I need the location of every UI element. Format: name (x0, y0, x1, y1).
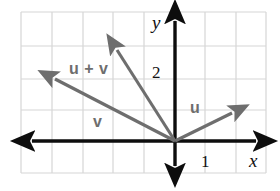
x-axis-label: x (249, 151, 257, 170)
y-axis-label: y (152, 13, 160, 32)
coordinate-plane-svg (0, 0, 280, 191)
vector-addition-figure: u + v v u y x 2 1 (0, 0, 280, 191)
vector-label-u: u (190, 100, 200, 116)
y-tick-label-2: 2 (152, 64, 161, 81)
x-tick-label-1: 1 (201, 153, 210, 170)
vector-label-v: v (93, 114, 102, 130)
vector-u (175, 113, 232, 141)
vector-label-u-plus-v: u + v (69, 61, 108, 77)
